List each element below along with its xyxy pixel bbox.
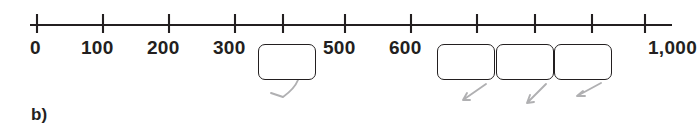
pointer-400 [271,80,298,97]
answer-box-800[interactable] [496,44,554,80]
tick-label-100: 100 [81,38,114,57]
answer-box-700[interactable] [437,44,495,80]
tick-label-600: 600 [389,38,422,57]
tick-label-0: 0 [30,38,41,57]
tick-label-500: 500 [323,38,356,57]
tick-label-1000: 1,000 [648,38,697,57]
tick-label-300: 300 [213,38,246,57]
pointer-900 [577,83,601,96]
answer-box-400[interactable] [258,44,316,80]
pointer-800 [527,84,546,103]
part-label: b) [31,106,47,123]
axis-group [30,14,672,33]
pointer-700 [463,84,486,100]
answer-box-900[interactable] [554,44,612,80]
number-line-worksheet: 0 100 200 300 500 600 1,000 b) [0,0,700,134]
tick-label-200: 200 [147,38,180,57]
